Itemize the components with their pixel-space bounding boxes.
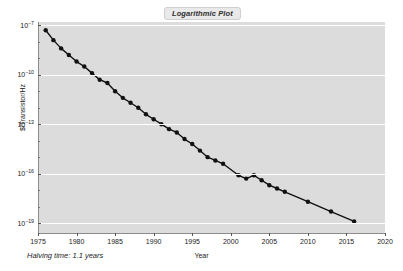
- data-point-marker: [306, 199, 310, 203]
- y-axis-minor-tick: [38, 190, 40, 191]
- x-axis-tick-mark: [154, 233, 155, 236]
- data-point-marker: [267, 183, 271, 187]
- data-point-marker: [59, 46, 63, 50]
- y-axis-minor-tick: [38, 42, 40, 43]
- gridline-horizontal: [38, 174, 385, 175]
- x-axis-tick-mark: [269, 233, 270, 236]
- data-point-marker: [105, 81, 109, 85]
- data-point-marker: [205, 155, 209, 159]
- data-point-marker: [128, 101, 132, 105]
- data-point-marker: [167, 127, 171, 131]
- gridline-horizontal: [38, 223, 385, 224]
- x-axis-tick-label: 1990: [146, 238, 162, 245]
- y-axis-tick-mark: [38, 174, 41, 175]
- x-axis-tick-mark: [385, 233, 386, 236]
- y-axis-line: [38, 22, 39, 233]
- x-axis-tick-mark: [77, 233, 78, 236]
- data-point-marker: [144, 112, 148, 116]
- x-axis-tick-mark: [38, 233, 39, 236]
- x-axis-tick-label: 2020: [377, 238, 393, 245]
- x-axis-line: [38, 233, 385, 234]
- y-axis-tick-label: 10−7: [20, 22, 34, 29]
- y-axis-tick-label: 10−16: [17, 170, 34, 177]
- series-line: [46, 30, 354, 221]
- x-axis-tick-label: 1975: [30, 238, 46, 245]
- data-point-marker: [182, 137, 186, 141]
- data-point-marker: [44, 28, 48, 32]
- data-point-marker: [175, 130, 179, 134]
- data-point-marker: [221, 162, 225, 166]
- y-axis-tick-mark: [38, 75, 41, 76]
- y-axis-minor-tick: [38, 108, 40, 109]
- x-axis-tick-mark: [308, 233, 309, 236]
- y-axis-minor-tick: [38, 91, 40, 92]
- x-axis-tick-mark: [346, 233, 347, 236]
- halving-time-annotation: Halving time: 1.1 years: [27, 252, 103, 260]
- data-point-marker: [244, 176, 248, 180]
- y-axis-label: $/Transistor/Hz: [19, 48, 26, 168]
- data-point-marker: [136, 106, 140, 110]
- x-axis-tick-label: 2015: [339, 238, 355, 245]
- x-axis-tick-mark: [192, 233, 193, 236]
- data-point-marker: [67, 53, 71, 57]
- y-axis-minor-tick: [38, 207, 40, 208]
- data-point-marker: [151, 117, 155, 121]
- y-axis-tick-mark: [38, 223, 41, 224]
- x-axis-tick-label: 2005: [262, 238, 278, 245]
- x-axis-tick-label: 1985: [107, 238, 123, 245]
- data-point-marker: [113, 89, 117, 93]
- data-point-marker: [74, 59, 78, 63]
- y-axis-tick-mark: [38, 25, 41, 26]
- chart-figure: Logarithmic Plot 10−710−1010−1310−1610−1…: [0, 0, 403, 271]
- data-point-marker: [213, 158, 217, 162]
- gridline-horizontal: [38, 124, 385, 125]
- y-axis-minor-tick: [38, 58, 40, 59]
- data-point-marker: [121, 96, 125, 100]
- x-axis-tick-mark: [231, 233, 232, 236]
- data-point-marker: [82, 64, 86, 68]
- y-axis-tick-label: 10−19: [17, 220, 34, 227]
- y-axis-tick-mark: [38, 124, 41, 125]
- x-axis-tick-label: 2000: [223, 238, 239, 245]
- y-axis-minor-tick: [38, 157, 40, 158]
- gridline-horizontal: [38, 25, 385, 26]
- data-point-marker: [198, 148, 202, 152]
- data-point-marker: [283, 190, 287, 194]
- y-axis-tick-labels: 10−710−1010−1310−1610−19: [0, 0, 34, 271]
- x-axis-tick-label: 2010: [300, 238, 316, 245]
- gridline-horizontal: [38, 75, 385, 76]
- y-axis-minor-tick: [38, 141, 40, 142]
- x-axis-tick-label: 1980: [69, 238, 85, 245]
- data-point-marker: [97, 78, 101, 82]
- x-axis-tick-label: 1995: [184, 238, 200, 245]
- data-series-svg: [38, 22, 385, 233]
- data-point-marker: [329, 209, 333, 213]
- x-axis-tick-mark: [115, 233, 116, 236]
- plot-area: [38, 22, 385, 233]
- data-point-marker: [190, 142, 194, 146]
- data-point-marker: [275, 186, 279, 190]
- chart-title: Logarithmic Plot: [164, 7, 241, 20]
- data-point-marker: [259, 178, 263, 182]
- data-point-marker: [51, 38, 55, 42]
